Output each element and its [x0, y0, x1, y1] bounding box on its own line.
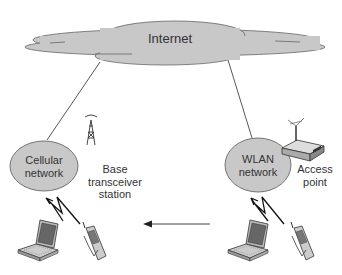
wireless-signal-cellular [46, 197, 80, 224]
laptop-icon [228, 220, 268, 261]
access-point-label: Access point [290, 163, 340, 189]
internet-label: Internet [140, 31, 200, 46]
laptop-icon [18, 220, 58, 261]
phone-icon [83, 222, 106, 260]
cellular-network-label: Cellular network [12, 154, 76, 180]
wireless-signal-wlan [251, 197, 284, 224]
handover-arrow [143, 221, 210, 228]
base-transceiver-station-label: Base transceiver station [80, 163, 150, 201]
phone-icon [291, 222, 314, 260]
cell-tower-icon [85, 115, 97, 145]
wlan-network-label: WLAN network [226, 153, 290, 179]
wlan-uplink [228, 60, 252, 138]
